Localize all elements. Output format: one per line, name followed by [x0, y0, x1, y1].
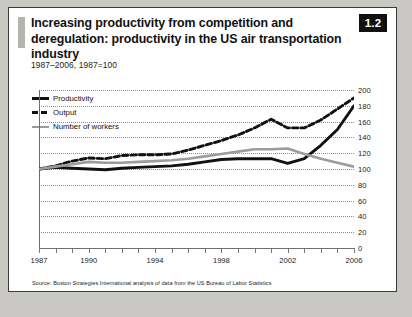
- y-axis-tick-label: 20: [358, 228, 384, 237]
- x-axis-tick: [122, 248, 123, 253]
- x-axis-tick-label: 1998: [213, 256, 230, 265]
- y-axis-tick-label: 80: [358, 181, 384, 190]
- x-axis-tick: [238, 248, 239, 253]
- x-axis-tick: [56, 248, 57, 253]
- figure-subtitle: 1987–2006, 1987=100: [31, 60, 117, 70]
- x-axis-tick: [321, 248, 322, 253]
- y-axis-tick-label: 180: [358, 102, 384, 111]
- x-axis-tick: [89, 248, 90, 253]
- x-axis-tick: [304, 248, 305, 253]
- x-axis-tick: [72, 248, 73, 253]
- figure-number-badge: 1.2: [359, 14, 387, 32]
- figure-card: 1.2 Increasing productivity from competi…: [8, 7, 397, 292]
- series-line-productivity: [39, 106, 354, 170]
- x-axis-tick: [155, 248, 156, 253]
- x-axis-tick: [288, 248, 289, 253]
- x-axis-tick: [39, 248, 40, 253]
- y-axis-tick-label: 200: [358, 86, 384, 95]
- x-axis-tick: [105, 248, 106, 253]
- x-axis-line: [39, 248, 354, 249]
- screenshot-root: 1.2 Increasing productivity from competi…: [0, 0, 412, 317]
- title-accent-bar: [18, 17, 25, 48]
- y-axis-tick-label: 120: [358, 149, 384, 158]
- x-axis-tick-label: 1987: [31, 256, 48, 265]
- x-axis-tick-label: 1990: [80, 256, 97, 265]
- y-axis-tick-label: 160: [358, 118, 384, 127]
- x-axis-tick: [205, 248, 206, 253]
- y-axis-tick-label: 40: [358, 212, 384, 221]
- x-axis-tick: [337, 248, 338, 253]
- y-axis-tick-label: 60: [358, 197, 384, 206]
- y-axis-tick-label: 0: [358, 244, 384, 253]
- x-axis-tick: [255, 248, 256, 253]
- chart-plot-area: [39, 90, 354, 248]
- x-axis-tick: [221, 248, 222, 253]
- x-axis-tick: [188, 248, 189, 253]
- source-note: Source: Boston Strategies International …: [32, 280, 272, 286]
- figure-title: Increasing productivity from competition…: [31, 16, 351, 63]
- x-axis-tick: [271, 248, 272, 253]
- x-axis-tick-label: 2002: [279, 256, 296, 265]
- x-axis-tick: [354, 248, 355, 253]
- x-axis-tick: [138, 248, 139, 253]
- y-axis-tick-label: 100: [358, 165, 384, 174]
- x-axis-tick-label: 1994: [147, 256, 164, 265]
- x-axis-tick: [172, 248, 173, 253]
- y-axis-tick-label: 140: [358, 133, 384, 142]
- x-axis-tick-label: 2006: [346, 256, 363, 265]
